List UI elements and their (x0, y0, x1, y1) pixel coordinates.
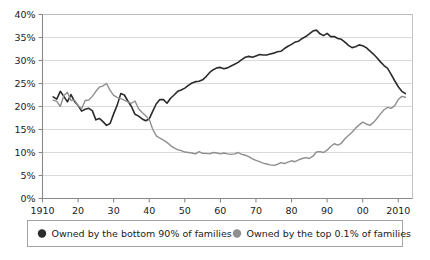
data-series-group (53, 30, 405, 165)
y-tick-label: 5% (20, 170, 35, 181)
y-tick-label: 20% (14, 101, 35, 112)
grid-lines (43, 15, 413, 176)
y-tick-label: 0% (20, 193, 35, 204)
x-tick-label: 50 (179, 205, 191, 216)
chart-legend: Owned by the bottom 90% of familiesOwned… (28, 221, 412, 247)
x-tick-label: 30 (108, 205, 120, 216)
x-tick-label: 2010 (386, 205, 410, 216)
x-tick-label: 40 (143, 205, 155, 216)
x-tick-label: 80 (285, 205, 297, 216)
x-tick-label: 70 (250, 205, 262, 216)
legend-marker-1 (233, 229, 241, 237)
series-line-0 (53, 30, 405, 125)
x-tick-label: 90 (321, 205, 333, 216)
y-tick-label: 25% (14, 78, 35, 89)
y-axis: 0%5%10%15%20%25%30%35%40% (14, 9, 42, 204)
chart-canvas: 0%5%10%15%20%25%30%35%40% 19102030405060… (0, 0, 430, 260)
legend-label-0: Owned by the bottom 90% of families (52, 228, 232, 239)
x-tick-label: 1910 (30, 205, 54, 216)
wealth-share-line-chart: 0%5%10%15%20%25%30%35%40% 19102030405060… (0, 0, 430, 260)
x-tick-label: 20 (72, 205, 84, 216)
y-tick-label: 10% (14, 147, 35, 158)
x-axis: 19102030405060708090002010 (30, 199, 412, 216)
y-tick-label: 15% (14, 124, 35, 135)
legend-label-1: Owned by the top 0.1% of families (247, 228, 412, 239)
legend-marker-0 (38, 229, 46, 237)
x-tick-label: 60 (214, 205, 226, 216)
y-tick-label: 35% (14, 32, 35, 43)
y-tick-label: 40% (14, 9, 35, 20)
x-tick-label: 00 (357, 205, 369, 216)
y-tick-label: 30% (14, 55, 35, 66)
